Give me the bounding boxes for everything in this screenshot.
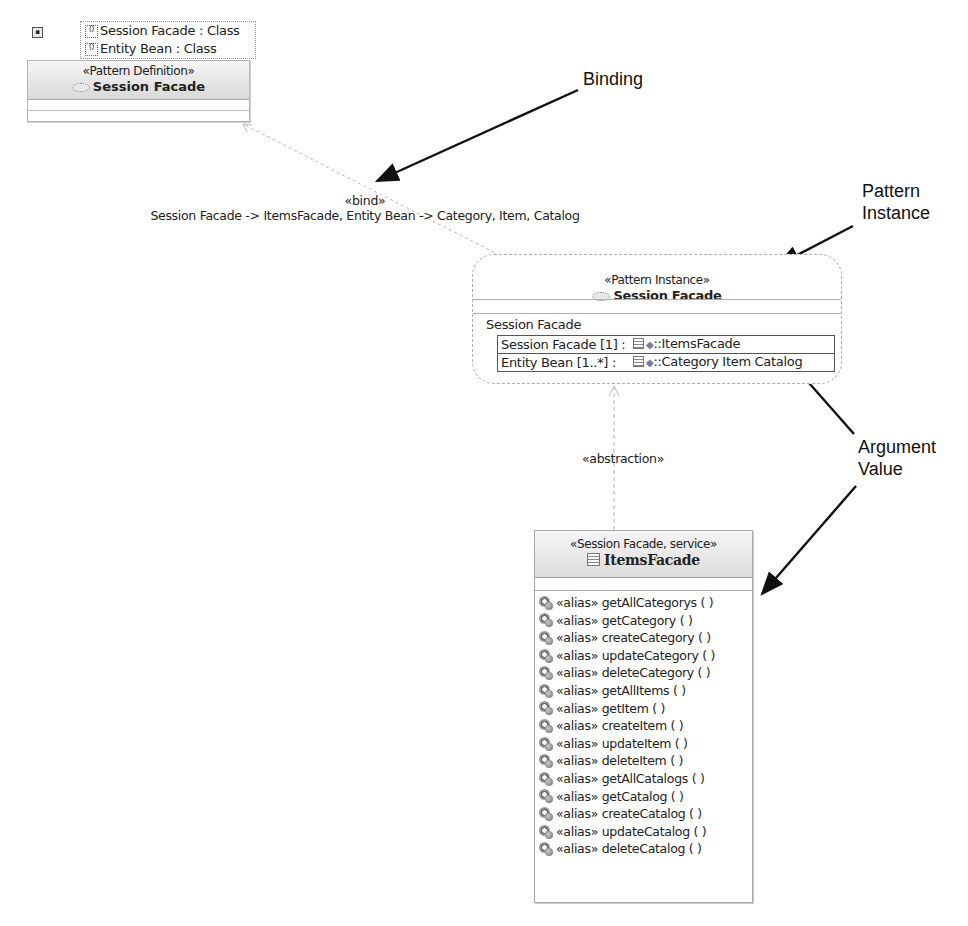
operation-gear-icon [539,754,553,768]
argument-value[interactable]: ◆::Category Item Catalog [630,354,835,372]
pattern-definition-name: Session Facade [93,79,205,94]
operation-gear-icon [539,789,553,803]
compartment-divider [473,299,841,300]
operation-gear-icon [539,649,553,663]
argument-value-annotation-arrow-2 [762,486,856,594]
operation-gear-icon [539,772,553,786]
argument-table: Session Facade [1] : ◆::ItemsFacade Enti… [497,335,835,372]
collaboration-ellipse-icon [72,83,90,92]
operation-gear-icon [539,613,553,627]
items-facade-name: ItemsFacade [604,552,700,568]
pattern-instance-header: «Pattern Instance» Session Facade [473,255,841,299]
operation-item[interactable]: «alias» createCatalog ( ) [539,805,752,823]
operation-item[interactable]: «alias» getAllCategorys ( ) [539,594,752,612]
bind-dependency-line [243,124,505,258]
pattern-instance-name: Session Facade [613,288,721,303]
operation-gear-icon [539,596,553,610]
pattern-instance-annotation: Pattern Instance [862,180,930,224]
class-icon [633,356,644,367]
diagram-connectors [0,0,968,926]
binding-annotation-arrow [377,90,578,181]
operation-item[interactable]: «alias» updateCatalog ( ) [539,823,752,841]
template-parameter-label: Entity Bean : Class [100,40,216,58]
binding-annotation: Binding [583,68,643,90]
class-icon [633,338,644,349]
operation-gear-icon [539,666,553,680]
operation-gear-icon [539,825,553,839]
pattern-definition-header: «Pattern Definition» Session Facade [28,61,249,100]
template-parameter-icon: ⟨⟩ [85,43,98,56]
items-facade-header: «Session Facade, service» ItemsFacade [535,531,752,578]
bind-connector-label[interactable]: «bind» Session Facade -> ItemsFacade, En… [100,193,630,223]
argument-value[interactable]: ◆::ItemsFacade [630,336,835,354]
operation-item[interactable]: «alias» createItem ( ) [539,717,752,735]
template-parameter-row[interactable]: ⟨⟩ Session Facade : Class [85,22,255,40]
operation-gear-icon [539,701,553,715]
argument-row[interactable]: Entity Bean [1..*] : ◆::Category Item Ca… [498,354,835,372]
operation-gear-icon [539,684,553,698]
parameter-label: Session Facade [1] : [498,336,631,354]
pattern-definition-compartment [28,100,249,111]
operation-item[interactable]: «alias» getCategory ( ) [539,612,752,630]
operation-item[interactable]: «alias» createCategory ( ) [539,629,752,647]
class-icon [587,553,600,566]
operation-item[interactable]: «alias» deleteItem ( ) [539,752,752,770]
template-parameters-box[interactable]: ⟨⟩ Session Facade : Class ⟨⟩ Entity Bean… [80,21,256,59]
pattern-instance-node[interactable]: «Pattern Instance» Session Facade Sessio… [472,254,842,384]
operation-gear-icon [539,631,553,645]
bind-arrowhead-icon [243,124,252,132]
operation-gear-icon [539,842,553,856]
template-parameter-label: Session Facade : Class [100,22,240,40]
template-parameter-row[interactable]: ⟨⟩ Entity Bean : Class [85,40,255,58]
operations-compartment: «alias» getAllCategorys ( ) «alias» getC… [535,591,752,858]
operation-item[interactable]: «alias» updateItem ( ) [539,735,752,753]
argument-row[interactable]: Session Facade [1] : ◆::ItemsFacade [498,336,835,354]
operation-item[interactable]: «alias» deleteCategory ( ) [539,664,752,682]
items-facade-stereotype: «Session Facade, service» [535,531,752,552]
operation-item[interactable]: «alias» getItem ( ) [539,700,752,718]
operation-item[interactable]: «alias» updateCategory ( ) [539,647,752,665]
bind-stereotype: «bind» [100,193,630,208]
operation-item[interactable]: «alias» getCatalog ( ) [539,788,752,806]
compartment-divider [473,313,841,314]
operation-gear-icon [539,737,553,751]
parameters-section-title: Session Facade [486,317,581,332]
attributes-compartment [535,578,752,591]
pattern-definition-stereotype: «Pattern Definition» [28,61,249,79]
pattern-definition-node[interactable]: «Pattern Definition» Session Facade [27,60,250,122]
operation-item[interactable]: «alias» deleteCatalog ( ) [539,840,752,858]
collapse-toggle-icon[interactable]: ▪ [32,27,43,38]
operation-gear-icon [539,807,553,821]
parameter-label: Entity Bean [1..*] : [498,354,631,372]
template-parameter-icon: ⟨⟩ [85,25,98,38]
items-facade-class-node[interactable]: «Session Facade, service» ItemsFacade «a… [534,530,753,903]
bind-mapping-text: Session Facade -> ItemsFacade, Entity Be… [100,208,630,223]
argument-value-annotation: Argument Value [858,436,936,480]
operation-item[interactable]: «alias» getAllCatalogs ( ) [539,770,752,788]
operation-item[interactable]: «alias» getAllItems ( ) [539,682,752,700]
operation-gear-icon [539,719,553,733]
pattern-instance-stereotype: «Pattern Instance» [473,273,841,288]
abstraction-connector-label[interactable]: «abstraction» [578,451,668,466]
